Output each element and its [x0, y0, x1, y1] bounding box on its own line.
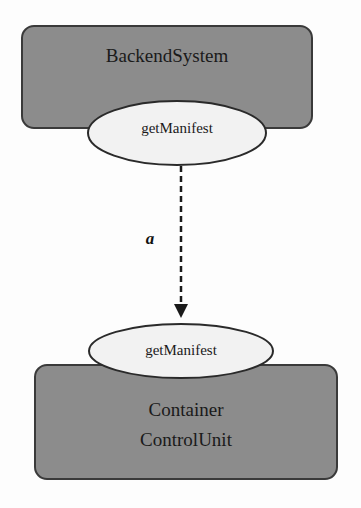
node-container-label-line1: Container [149, 399, 225, 420]
port-container-getmanifest[interactable]: getManifest [89, 324, 273, 378]
node-backend-label: BackendSystem [106, 45, 229, 66]
diagram-canvas: BackendSystem getManifest a Container Co… [0, 0, 361, 508]
edge-a[interactable]: a [146, 166, 188, 318]
port-container-label: getManifest [145, 342, 217, 358]
node-container-control-unit[interactable]: Container ControlUnit [35, 365, 337, 479]
node-container-label-line2: ControlUnit [140, 429, 233, 450]
port-backend-getmanifest[interactable]: getManifest [88, 101, 266, 165]
arrowhead-icon [174, 304, 188, 318]
diagram-svg: BackendSystem getManifest a Container Co… [0, 0, 361, 508]
edge-label: a [146, 229, 155, 248]
port-backend-label: getManifest [141, 120, 213, 136]
